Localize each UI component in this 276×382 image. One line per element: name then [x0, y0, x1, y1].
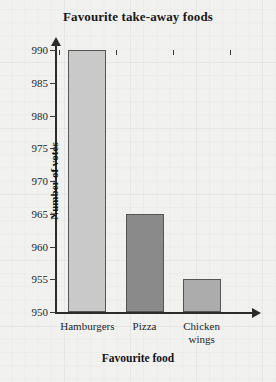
x-axis-category-label: Chicken wings	[183, 320, 220, 345]
y-axis-tick	[50, 50, 56, 51]
y-axis-tick	[50, 83, 56, 84]
y-axis-tick-label: 985	[32, 77, 49, 89]
x-axis-arrow-icon	[252, 308, 261, 318]
bar[interactable]	[126, 214, 164, 312]
y-axis-tick-label: 960	[32, 241, 49, 253]
y-axis-tick-label: 975	[32, 142, 49, 154]
y-axis-tick-label: 950	[32, 306, 49, 318]
x-axis-tick	[173, 50, 174, 55]
x-axis-category-label: Hamburgers	[60, 320, 114, 333]
y-axis-tick-label: 970	[32, 175, 49, 187]
x-axis-line	[55, 312, 253, 314]
y-axis-tick	[50, 148, 56, 149]
x-axis-category-label: Pizza	[133, 320, 157, 333]
y-axis-tick	[50, 247, 56, 248]
y-axis-tick-label: 965	[32, 208, 49, 220]
y-axis-tick	[50, 312, 56, 313]
bar[interactable]	[68, 50, 106, 312]
y-axis-tick	[50, 116, 56, 117]
x-axis-tick	[59, 50, 60, 55]
y-axis-tick-label: 980	[32, 110, 49, 122]
x-axis-tick	[230, 50, 231, 55]
bar[interactable]	[183, 279, 221, 312]
y-axis-tick	[50, 214, 56, 215]
y-axis-tick	[50, 279, 56, 280]
bar-chart: Favourite take-away foods Number of vote…	[0, 0, 276, 382]
plot-area: Number of votes 950955960965970975980985…	[56, 50, 253, 312]
y-axis-tick-label: 990	[32, 44, 49, 56]
y-axis-tick	[50, 181, 56, 182]
y-axis-tick-label: 955	[32, 273, 49, 285]
chart-title: Favourite take-away foods	[0, 9, 276, 25]
x-axis-tick	[116, 50, 117, 55]
x-axis-title: Favourite food	[0, 352, 276, 364]
